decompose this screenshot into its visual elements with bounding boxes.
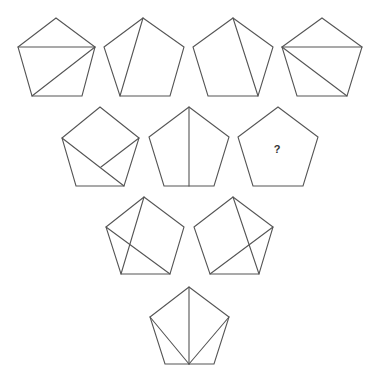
pentagon-chord-line: [189, 317, 229, 364]
pentagon-chord-line: [282, 47, 347, 96]
pentagon-figure-3: [193, 18, 273, 96]
pentagon-chord-line: [121, 197, 144, 274]
pentagon-chord-line: [32, 47, 95, 96]
pentagon-outline: [193, 18, 273, 96]
pentagon-chord-line: [233, 197, 259, 274]
pentagon-figure-5: [62, 107, 139, 186]
pentagon-chord-line: [106, 227, 170, 274]
pentagon-figure-2: [104, 18, 184, 96]
pentagon-chord-line: [62, 138, 124, 186]
pentagon-puzzle-diagram: [0, 0, 372, 375]
pentagon-chord-line: [210, 227, 273, 274]
pentagon-figure-1: [18, 18, 95, 96]
pentagon-outline: [18, 18, 95, 96]
question-mark-label: ?: [274, 143, 281, 155]
pentagon-chord-line: [150, 317, 189, 364]
pentagon-figure-4: [282, 18, 362, 96]
pentagon-outline: [282, 18, 362, 96]
pentagon-chord-line: [101, 138, 139, 167]
pentagon-figure-10: [150, 287, 229, 364]
pentagon-outline: [104, 18, 184, 96]
pentagon-figure-9: [194, 197, 273, 274]
pentagon-figure-6: [149, 107, 229, 186]
pentagon-chord-line: [120, 18, 143, 96]
pentagon-figure-8: [106, 197, 184, 274]
pentagon-chord-line: [233, 18, 258, 96]
